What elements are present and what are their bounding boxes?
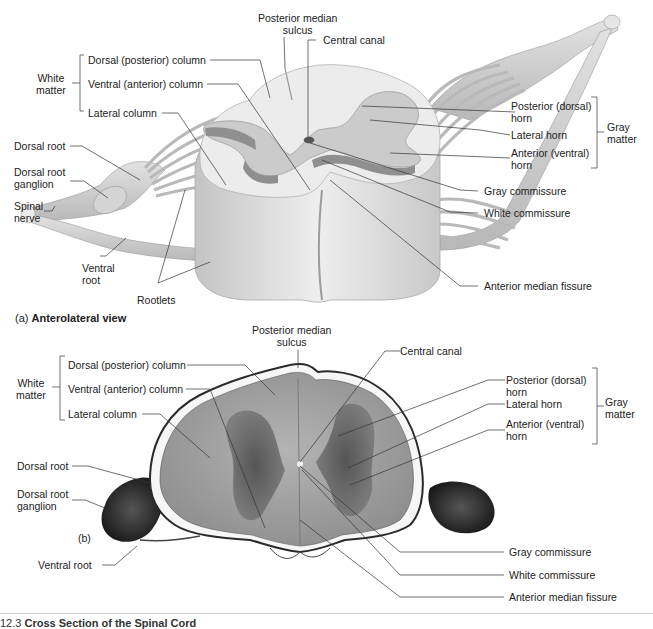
panel-a-title: (a) Anterolateral view xyxy=(15,312,126,324)
label-gray-matter-b: Gray matter xyxy=(605,396,635,420)
label-line: ganglion xyxy=(14,178,65,190)
label-posterior-horn-b: Posterior (dorsal) horn xyxy=(506,374,587,398)
label-posterior-median-sulcus-b: Posterior median sulcus xyxy=(252,324,331,348)
label-line: Dorsal root xyxy=(14,166,65,178)
label-line: Gray xyxy=(605,396,635,408)
label-line: nerve xyxy=(14,212,43,224)
label-lateral-column-a: Lateral column xyxy=(88,107,157,119)
label-central-canal-b: Central canal xyxy=(400,345,462,357)
label-dorsal-column-a: Dorsal (posterior) column xyxy=(88,54,206,66)
label-line: Anterior (ventral) xyxy=(506,418,584,430)
label-dorsal-root-ganglion-b: Dorsal root ganglion xyxy=(17,488,68,512)
label-anterior-median-fissure-b: Anterior median fissure xyxy=(509,591,617,603)
label-posterior-horn-a: Posterior (dorsal) horn xyxy=(511,100,592,124)
panel-a-title-text: Anterolateral view xyxy=(32,312,127,324)
label-gray-matter-a: Gray matter xyxy=(607,121,637,145)
label-gray-commissure-b: Gray commissure xyxy=(509,546,591,558)
panel-b-letter: (b) xyxy=(78,532,91,544)
label-dorsal-column-b: Dorsal (posterior) column xyxy=(68,359,186,371)
panel-a-letter: (a) xyxy=(15,312,28,324)
label-ventral-root-a: Ventral root xyxy=(82,262,115,286)
label-line: horn xyxy=(511,112,592,124)
label-line: Posterior (dorsal) xyxy=(511,100,592,112)
label-ventral-column-a: Ventral (anterior) column xyxy=(88,78,203,90)
label-line: Spinal xyxy=(14,200,43,212)
label-white-matter-a: White matter xyxy=(36,72,66,96)
label-white-commissure-a: White commissure xyxy=(484,207,570,219)
label-line: matter xyxy=(16,389,46,401)
label-ventral-column-b: Ventral (anterior) column xyxy=(68,383,183,395)
label-dorsal-root-ganglion-a: Dorsal root ganglion xyxy=(14,166,65,190)
label-rootlets-a: Rootlets xyxy=(137,294,176,306)
label-lateral-horn-a: Lateral horn xyxy=(511,129,567,141)
label-line: horn xyxy=(506,386,587,398)
label-lateral-horn-b: Lateral horn xyxy=(506,398,562,410)
label-line: sulcus xyxy=(252,336,331,348)
label-line: Posterior median xyxy=(252,324,331,336)
label-line: matter xyxy=(607,133,637,145)
label-anterior-median-fissure-a: Anterior median fissure xyxy=(484,280,592,292)
label-line: Ventral xyxy=(82,262,115,274)
caption-number: 12.3 xyxy=(0,617,21,629)
label-gray-commissure-a: Gray commissure xyxy=(484,185,566,197)
label-anterior-horn-a: Anterior (ventral) horn xyxy=(511,147,589,171)
label-line: Posterior median xyxy=(258,12,337,24)
label-line: White xyxy=(16,377,46,389)
label-line: Dorsal root xyxy=(17,488,68,500)
label-line: Posterior (dorsal) xyxy=(506,374,587,386)
label-white-matter-b: White matter xyxy=(16,377,46,401)
label-white-commissure-b: White commissure xyxy=(509,569,595,581)
label-line: ganglion xyxy=(17,500,68,512)
label-line: horn xyxy=(511,159,589,171)
label-spinal-nerve-a: Spinal nerve xyxy=(14,200,43,224)
label-lateral-column-b: Lateral column xyxy=(68,408,137,420)
label-anterior-horn-b: Anterior (ventral) horn xyxy=(506,418,584,442)
label-line: matter xyxy=(36,84,66,96)
label-line: Gray xyxy=(607,121,637,133)
label-line: horn xyxy=(506,430,584,442)
label-line: Anterior (ventral) xyxy=(511,147,589,159)
label-line: root xyxy=(82,274,115,286)
label-dorsal-root-a: Dorsal root xyxy=(14,140,65,152)
label-line: matter xyxy=(605,408,635,420)
figure-caption: 12.3 Cross Section of the Spinal Cord xyxy=(0,617,196,629)
caption-title: Cross Section of the Spinal Cord xyxy=(24,617,196,629)
label-line: White xyxy=(36,72,66,84)
label-dorsal-root-b: Dorsal root xyxy=(17,460,68,472)
label-ventral-root-b: Ventral root xyxy=(38,559,92,571)
caption-divider xyxy=(0,613,653,614)
label-posterior-median-sulcus-a: Posterior median sulcus xyxy=(258,12,337,36)
label-central-canal-a: Central canal xyxy=(323,34,385,46)
